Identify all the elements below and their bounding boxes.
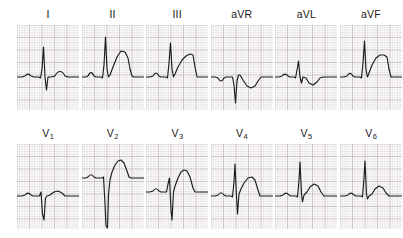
lead-label-aVF: aVF: [361, 3, 381, 25]
lead-label-subscript-V6: 6: [373, 132, 377, 141]
lead-label-II: II: [109, 3, 115, 25]
lead-label-subscript-V2: 2: [114, 132, 118, 141]
trace-box-I: [17, 25, 79, 110]
ecg-grid: [17, 144, 79, 229]
lead-cell-V3: V3: [146, 122, 208, 232]
trace-box-V5: [275, 144, 337, 229]
lead-label-subscript-V4: 4: [244, 132, 248, 141]
trace-box-aVR: [211, 25, 273, 110]
lead-label-V4: V4: [236, 122, 248, 144]
trace-box-V6: [340, 144, 402, 229]
ecg-grid: [340, 144, 402, 229]
ecg-grid: [82, 25, 144, 110]
lead-label-V5: V5: [301, 122, 313, 144]
lead-cell-V1: V1: [17, 122, 79, 232]
ecg-grid: [275, 144, 337, 229]
ecg-sheet: IIIIIIaVRaVLaVF V1V2V3V4V5V6: [0, 0, 403, 238]
lead-label-V2: V2: [107, 122, 119, 144]
lead-cell-III: III: [146, 3, 208, 113]
trace-box-V4: [211, 144, 273, 229]
ecg-grid: [340, 25, 402, 110]
ecg-grid: [17, 25, 79, 110]
lead-label-III: III: [173, 3, 182, 25]
lead-label-subscript-V5: 5: [308, 132, 312, 141]
lead-cell-aVL: aVL: [275, 3, 337, 113]
lead-cell-V5: V5: [275, 122, 337, 232]
lead-label-V6: V6: [365, 122, 377, 144]
lead-cell-II: II: [82, 3, 144, 113]
lead-cell-V2: V2: [82, 122, 144, 232]
trace-box-V1: [17, 144, 79, 229]
trace-box-aVL: [275, 25, 337, 110]
lead-cell-aVF: aVF: [340, 3, 402, 113]
ecg-grid: [211, 25, 273, 110]
trace-box-II: [82, 25, 144, 110]
lead-cell-I: I: [17, 3, 79, 113]
ecg-grid: [275, 25, 337, 110]
lead-label-V1: V1: [42, 122, 54, 144]
lead-label-aVL: aVL: [297, 3, 316, 25]
lead-label-V3: V3: [171, 122, 183, 144]
ecg-grid: [146, 144, 208, 229]
trace-box-III: [146, 25, 208, 110]
trace-box-V2: [82, 144, 144, 229]
lead-label-aVR: aVR: [231, 3, 252, 25]
lead-cell-aVR: aVR: [211, 3, 273, 113]
trace-box-V3: [146, 144, 208, 229]
ecg-grid: [82, 144, 144, 229]
trace-box-aVF: [340, 25, 402, 110]
lead-label-I: I: [46, 3, 49, 25]
lead-cell-V4: V4: [211, 122, 273, 232]
lead-label-subscript-V1: 1: [50, 132, 54, 141]
lead-label-subscript-V3: 3: [179, 132, 183, 141]
lead-cell-V6: V6: [340, 122, 402, 232]
ecg-row-chest-leads: V1V2V3V4V5V6: [0, 122, 403, 232]
ecg-grid: [211, 144, 273, 229]
ecg-row-limb-leads: IIIIIIaVRaVLaVF: [0, 3, 403, 113]
ecg-grid: [146, 25, 208, 110]
